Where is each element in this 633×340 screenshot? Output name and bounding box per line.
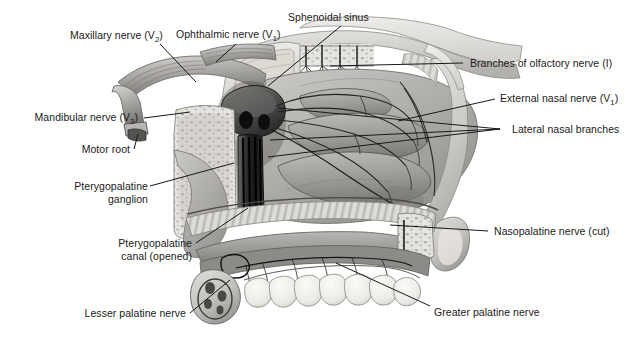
label-nasopalatine-nerve: Nasopalatine nerve (cut): [494, 225, 610, 238]
label-lateral-nasal-branches: Lateral nasal branches: [512, 123, 619, 136]
label-lesser-palatine-nerve: Lesser palatine nerve: [80, 307, 186, 320]
label-maxillary-nerve: Maxillary nerve (V2): [70, 29, 163, 44]
cribriform-plate: [296, 44, 374, 66]
sphenopalatine-foramen: [258, 114, 270, 130]
label-branches-of-olfactory-nerve: Branches of olfactory nerve (I): [470, 57, 612, 70]
anatomy-illustration: [0, 0, 633, 340]
label-external-nasal-nerve: External nasal nerve (V1): [500, 92, 618, 107]
anatomy-figure: Maxillary nerve (V2) Ophthalmic nerve (V…: [0, 0, 633, 340]
label-greater-palatine-nerve: Greater palatine nerve: [434, 306, 540, 319]
upper-teeth-row: [245, 274, 421, 307]
label-sphenoidal-sinus: Sphenoidal sinus: [288, 11, 369, 24]
foramen-rotundum: [239, 111, 253, 129]
label-ophthalmic-nerve: Ophthalmic nerve (V1): [176, 28, 281, 43]
label-motor-root: Motor root: [48, 143, 130, 156]
label-mandibular-nerve: Mandibular nerve (V3): [10, 111, 138, 126]
label-pterygopalatine-ganglion: Pterygopalatine ganglion: [38, 180, 148, 205]
label-pterygopalatine-canal: Pterygopalatine canal (opened): [82, 237, 192, 262]
